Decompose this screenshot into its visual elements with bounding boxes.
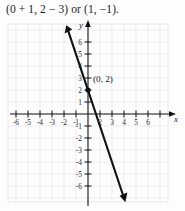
y-tick-label: -5 (76, 170, 82, 179)
y-tick-label: -2 (76, 134, 82, 143)
graph-svg: -6 -5 -4 -3 -2 -1 2 3 4 5 6 6 5 4 3 2 1 … (0, 16, 185, 211)
y-tick-label: 1 (78, 98, 82, 107)
coordinate-plane-figure: -6 -5 -4 -3 -2 -1 2 3 4 5 6 6 5 4 3 2 1 … (0, 16, 185, 211)
y-tick-label: 5 (78, 50, 82, 59)
y-axis-arrow (85, 20, 91, 27)
y-tick-label: 6 (78, 38, 82, 47)
point-label-0-2: (0, 2) (93, 74, 113, 84)
x-axis-label: x (173, 114, 178, 124)
x-tick-label: -3 (49, 118, 55, 127)
point-marker-0-2 (85, 87, 90, 92)
y-tick-label: -6 (76, 182, 82, 191)
x-tick-label: -5 (25, 118, 31, 127)
y-axis-label: y (78, 20, 83, 30)
caption-text: (0 + 1, 2 − 3) or (1, −1). (6, 2, 182, 16)
x-tick-label: -6 (13, 118, 19, 127)
x-tick-label: -2 (61, 118, 67, 127)
x-tick-label: 6 (146, 118, 150, 127)
y-tick-label: 3 (78, 74, 82, 83)
y-tick-label: -4 (76, 158, 82, 167)
x-tick-label: 5 (134, 118, 138, 127)
x-tick-label: 4 (122, 118, 126, 127)
figure-page: (0 + 1, 2 − 3) or (1, −1). (0, 0, 185, 211)
y-tick-label: -1 (76, 122, 82, 131)
y-tick-label: 2 (78, 86, 82, 95)
y-tick-label: -3 (76, 146, 82, 155)
x-tick-label: -4 (37, 118, 43, 127)
x-tick-label: 3 (110, 118, 114, 127)
